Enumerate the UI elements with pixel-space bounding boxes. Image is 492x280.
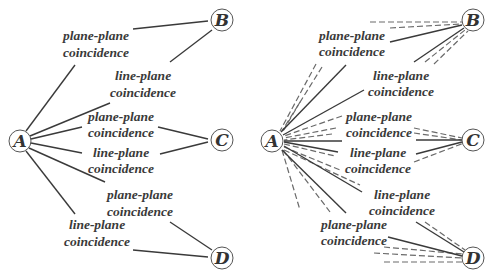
edge-label: plane-plane [87,109,154,124]
edge-label: line-plane [374,187,430,202]
edge-label: plane-plane [320,217,387,232]
svg-text:A: A [263,131,278,151]
left-diagram: plane-plane coincidence line-plane coinc… [9,9,233,269]
right-diagram: plane-plane coincidence line-plane coinc… [261,9,484,269]
edge [416,142,462,154]
dashed-edge [425,222,465,250]
node-d: D [211,247,233,269]
svg-text:D: D [214,248,230,268]
edge-label: coincidence [345,161,411,176]
edge [133,21,208,29]
svg-text:A: A [11,131,26,151]
node-a: A [9,130,31,152]
svg-text:D: D [465,248,481,268]
svg-text:B: B [214,10,229,30]
edge-label: coincidence [369,203,435,218]
edge-label: plane-plane [345,109,412,124]
edge [160,142,208,154]
dashed-edge [425,30,465,62]
edge [170,30,212,62]
svg-text:C: C [215,130,229,150]
edge-label: coincidence [88,161,154,176]
edge-label: line-plane [373,68,429,83]
node-c: C [462,129,484,151]
node-b: B [462,9,484,31]
edge-label: coincidence [88,125,154,140]
edge [158,127,208,139]
edge [26,151,75,214]
dashed-edge [434,31,468,64]
edge-label: coincidence [346,125,412,140]
node-c: C [211,129,233,151]
edge-label: coincidence [319,44,385,59]
edge-label: coincidence [110,85,176,100]
dashed-edge [414,128,462,138]
dashed-edge [374,253,462,258]
edge-label: coincidence [368,84,434,99]
edge-label: plane-plane [318,28,385,43]
node-b: B [211,9,233,31]
edge-label: plane-plane [106,187,173,202]
edge [170,222,212,250]
edge [133,250,208,257]
dashed-edge [280,64,316,131]
edge [281,65,346,132]
edge-label: coincidence [63,45,129,60]
edge [31,143,82,153]
edge-label: line-plane [69,217,125,232]
edge [414,28,464,62]
edge-label: line-plane [93,145,149,160]
edge [416,222,464,252]
dashed-edge [282,67,322,131]
edge-label: line-plane [115,68,171,83]
edge-label: coincidence [321,233,387,248]
node-a: A [261,130,283,152]
svg-text:B: B [465,10,480,30]
edge-label: plane-plane [62,28,129,43]
edge-label: coincidence [64,234,130,249]
edge-label: line-plane [350,145,406,160]
constraint-diagram: plane-plane coincidence line-plane coinc… [0,0,492,280]
svg-text:C: C [466,130,480,150]
node-d: D [462,247,484,269]
